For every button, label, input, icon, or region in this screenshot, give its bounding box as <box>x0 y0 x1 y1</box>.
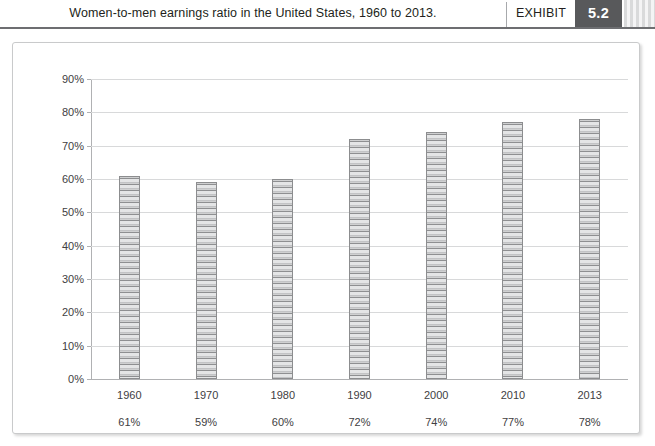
page-title: Women-to-men earnings ratio in the Unite… <box>0 0 506 27</box>
y-axis-tick-mark <box>87 312 91 313</box>
y-axis-tick-mark <box>87 346 91 347</box>
x-axis-category-label: 2013 <box>577 389 601 401</box>
header-stripes-decoration <box>624 0 655 27</box>
bar <box>502 122 523 379</box>
y-axis-tick-label: 70% <box>62 140 84 152</box>
bar-value-label: 59% <box>195 416 217 428</box>
x-axis-category-label: 1960 <box>117 389 141 401</box>
y-axis-tick-mark <box>87 179 91 180</box>
y-axis-tick-label: 40% <box>62 240 84 252</box>
y-axis-tick-mark <box>87 379 91 380</box>
y-axis-tick-label: 80% <box>62 106 84 118</box>
bar <box>272 179 293 379</box>
bar-value-label: 61% <box>118 416 140 428</box>
bar <box>196 182 217 379</box>
y-axis-tick-label: 90% <box>62 73 84 85</box>
plot-area: 0%10%20%30%40%50%60%70%80%90%196061%1970… <box>91 79 628 379</box>
x-axis-category-label: 1980 <box>271 389 295 401</box>
bar <box>426 132 447 379</box>
x-axis-category-label: 1970 <box>194 389 218 401</box>
bar-value-label: 72% <box>348 416 370 428</box>
y-axis-tick-label: 0% <box>68 373 84 385</box>
bar-value-label: 60% <box>272 416 294 428</box>
chart-container: 0%10%20%30%40%50%60%70%80%90%196061%1970… <box>12 42 640 434</box>
bar <box>119 176 140 379</box>
y-axis-tick-label: 50% <box>62 206 84 218</box>
exhibit-number-badge: 5.2 <box>575 0 622 27</box>
y-axis-tick-mark <box>87 79 91 80</box>
y-axis-tick-mark <box>87 279 91 280</box>
y-axis-tick-label: 60% <box>62 173 84 185</box>
x-axis-line <box>91 379 628 380</box>
y-axis-tick-mark <box>87 112 91 113</box>
x-axis-category-label: 2000 <box>424 389 448 401</box>
y-axis-tick-label: 10% <box>62 340 84 352</box>
y-axis-tick-label: 30% <box>62 273 84 285</box>
y-axis-tick-mark <box>87 246 91 247</box>
y-axis-tick-mark <box>87 212 91 213</box>
y-axis-line <box>91 79 92 380</box>
exhibit-header: Women-to-men earnings ratio in the Unite… <box>0 0 655 29</box>
bar-value-label: 77% <box>502 416 524 428</box>
exhibit-label: EXHIBIT <box>507 0 575 27</box>
bar-value-label: 74% <box>425 416 447 428</box>
y-axis-tick-label: 20% <box>62 306 84 318</box>
x-axis-category-label: 1990 <box>347 389 371 401</box>
gridline <box>91 112 628 113</box>
gridline <box>91 79 628 80</box>
bar-value-label: 78% <box>579 416 601 428</box>
x-axis-category-label: 2010 <box>501 389 525 401</box>
y-axis-tick-mark <box>87 146 91 147</box>
bar <box>349 139 370 379</box>
bar <box>579 119 600 379</box>
exhibit-number-text: 5.2 <box>575 0 622 27</box>
